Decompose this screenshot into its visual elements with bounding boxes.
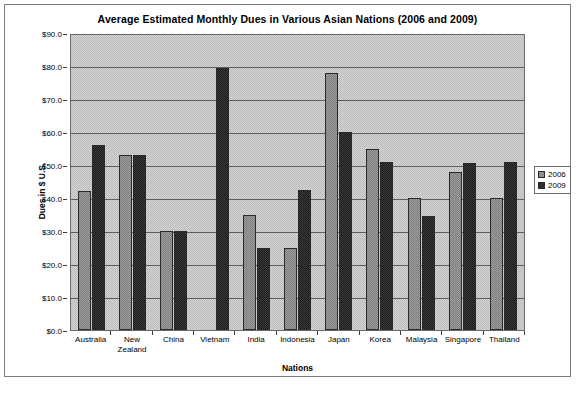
y-tick-label: $0.0 [46,327,62,336]
x-axis-title: Nations [70,363,525,373]
y-tick-label: $20.0 [42,261,62,270]
bar-2006[interactable] [366,149,379,331]
x-tick-label: Vietnam [194,335,235,355]
bar-2009[interactable] [257,248,270,331]
x-tick-label: New Zealand [111,335,152,355]
bar-group [318,35,359,330]
legend-swatch-2006 [538,171,545,178]
plot-area [70,34,525,331]
legend-item[interactable]: 2006 [538,170,566,179]
x-tick-label: Australia [70,335,111,355]
bar-group [359,35,400,330]
bar-2009[interactable] [380,162,393,330]
bar-group [277,35,318,330]
y-tick-mark [63,298,67,299]
bar-group [401,35,442,330]
y-tick-label: $80.0 [42,63,62,72]
y-tick-mark [63,166,67,167]
y-tick-mark [63,133,67,134]
legend-label: 2006 [548,170,566,179]
bar-2006[interactable] [449,172,462,330]
y-tick-mark [63,199,67,200]
x-tick-label: Korea [360,335,401,355]
y-axis-labels: $0.0$10.0$20.0$30.0$40.0$50.0$60.0$70.0$… [5,34,67,331]
bar-2006[interactable] [78,191,91,330]
y-tick-label: $30.0 [42,228,62,237]
bar-group [483,35,524,330]
bars-layer [71,35,524,330]
bar-group [442,35,483,330]
x-axis-labels: AustraliaNew ZealandChinaVietnamIndiaInd… [70,335,525,355]
bar-2009[interactable] [92,145,105,330]
y-tick-label: $60.0 [42,129,62,138]
bar-2009[interactable] [422,216,435,330]
bar-2009[interactable] [339,132,352,330]
legend-label: 2009 [548,181,566,190]
chart-frame: Average Estimated Monthly Dues in Variou… [4,4,571,377]
y-tick-label: $70.0 [42,96,62,105]
x-tick-label: China [153,335,194,355]
y-tick-mark [63,232,67,233]
x-tick-label: Indonesia [277,335,318,355]
y-tick-mark [63,67,67,68]
bar-2006[interactable] [160,231,173,330]
bar-2009[interactable] [216,68,229,330]
bar-group [236,35,277,330]
y-tick-mark [63,265,67,266]
x-tick-label: Thailand [484,335,525,355]
bar-2006[interactable] [325,73,338,330]
bar-2006[interactable] [490,198,503,330]
bar-2006[interactable] [284,248,297,331]
x-tick-label: Malaysia [401,335,442,355]
bar-2006[interactable] [243,215,256,331]
bar-group [195,35,236,330]
chart-title: Average Estimated Monthly Dues in Variou… [5,13,570,25]
bar-2009[interactable] [133,155,146,330]
y-tick-label: $90.0 [42,30,62,39]
x-tick-label: India [235,335,276,355]
bar-2009[interactable] [174,231,187,330]
legend-item[interactable]: 2009 [538,181,566,190]
bar-group [112,35,153,330]
bar-group [71,35,112,330]
y-tick-label: $10.0 [42,294,62,303]
y-tick-label: $40.0 [42,195,62,204]
x-tick-label: Japan [318,335,359,355]
x-tick-label: Singapore [442,335,483,355]
y-tick-mark [63,331,67,332]
y-tick-mark [63,100,67,101]
bar-2009[interactable] [298,190,311,330]
y-tick-mark [63,34,67,35]
bar-2009[interactable] [463,163,476,330]
bar-2006[interactable] [119,155,132,330]
bar-2009[interactable] [504,162,517,330]
bar-2006[interactable] [408,198,421,330]
y-tick-label: $50.0 [42,162,62,171]
legend-swatch-2009 [538,182,545,189]
bar-group [153,35,194,330]
chart-legend: 20062009 [534,166,571,194]
